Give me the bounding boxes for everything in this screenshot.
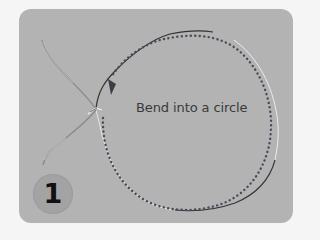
wire-loop-left-highlight [96,110,172,210]
wire-upper-end [42,40,95,108]
step-number: 1 [33,174,73,214]
dotted-direction-path [103,36,271,210]
wire-lower-end [43,110,96,165]
wire-loop [96,31,213,108]
arrowhead-icon [108,79,116,95]
caption-text: Bend into a circle [136,100,247,115]
step-number-badge: 1 [33,174,73,214]
